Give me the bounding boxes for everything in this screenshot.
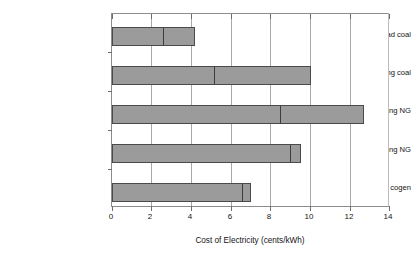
bar-central-baseload-coal	[112, 27, 195, 46]
tick-bottom-12	[350, 206, 351, 211]
bar-segment-mark	[290, 145, 291, 162]
x-axis-title: Cost of Electricity (cents/kWh)	[111, 236, 389, 245]
tick-bottom-14	[389, 206, 390, 211]
ytick-2	[108, 91, 112, 92]
tick-bottom-10	[310, 206, 311, 211]
tick-top-12	[350, 14, 351, 19]
bar-row	[112, 66, 388, 85]
tick-top-8	[270, 14, 271, 19]
bar-row	[112, 144, 388, 163]
bar-central-peaking-ng	[112, 105, 364, 124]
bar-row	[112, 105, 388, 124]
tick-top-2	[151, 14, 152, 19]
bar-segment-mark	[163, 28, 164, 45]
bar-peaking-ng-cogen	[112, 183, 251, 202]
tick-top-6	[231, 14, 232, 19]
bar-row	[112, 183, 388, 202]
ytick-4	[108, 169, 112, 170]
xtick-label-4: 4	[178, 212, 202, 221]
plot-area	[111, 13, 389, 207]
tick-bottom-2	[151, 206, 152, 211]
bar-row	[112, 27, 388, 46]
bar-segment-mark	[280, 106, 281, 123]
bar-central-peaking-coal	[112, 66, 311, 85]
tick-top-14	[389, 14, 390, 19]
xtick-label-14: 14	[376, 212, 400, 221]
xtick-label-6: 6	[218, 212, 242, 221]
ytick-1	[108, 52, 112, 53]
bar-segment-mark	[214, 67, 215, 84]
xtick-label-12: 12	[337, 212, 361, 221]
tick-top-10	[310, 14, 311, 19]
xtick-label-0: 0	[99, 212, 123, 221]
bar-segment-mark	[242, 184, 243, 201]
xtick-label-8: 8	[257, 212, 281, 221]
xtick-label-10: 10	[297, 212, 321, 221]
tick-bottom-6	[231, 206, 232, 211]
tick-bottom-0	[112, 206, 113, 211]
xtick-label-2: 2	[138, 212, 162, 221]
ytick-3	[108, 130, 112, 131]
tick-top-0	[112, 14, 113, 19]
bar-onsite-peaking-ng	[112, 144, 301, 163]
tick-top-4	[191, 14, 192, 19]
tick-bottom-4	[191, 206, 192, 211]
tick-bottom-8	[270, 206, 271, 211]
bar-chart: Central baseload coal Central peaking co…	[0, 0, 411, 266]
